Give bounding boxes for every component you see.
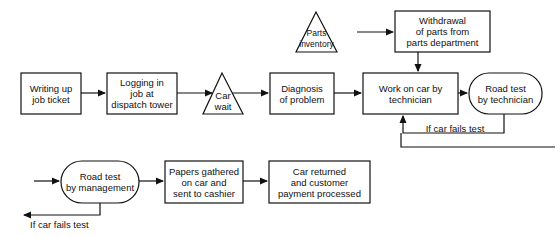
node-logging-in-job: Logging in job at dispatch tower bbox=[107, 73, 177, 114]
node-withdrawal-of-parts: Withdrawal of parts from parts departmen… bbox=[395, 11, 490, 52]
node-writing-up-job-ticket: Writing up job ticket bbox=[21, 73, 81, 114]
node-road-test-management: Road test by management bbox=[61, 161, 139, 203]
node-papers-gathered: Papers gathered on car and sent to cashi… bbox=[165, 161, 243, 203]
node-car-returned: Car returned and customer payment proces… bbox=[269, 161, 370, 203]
node-road-test-technician: Road test by technician bbox=[469, 73, 542, 114]
node-diagnosis: Diagnosis of problem bbox=[270, 73, 334, 114]
label-fail-management: If car fails test bbox=[30, 219, 110, 230]
node-parts-inventory: Parts inventory bbox=[296, 26, 337, 52]
node-car-wait: Car wait bbox=[203, 88, 243, 114]
node-work-on-car: Work on car by technician bbox=[363, 73, 458, 114]
label-fail-technician: If car fails test bbox=[410, 123, 500, 134]
